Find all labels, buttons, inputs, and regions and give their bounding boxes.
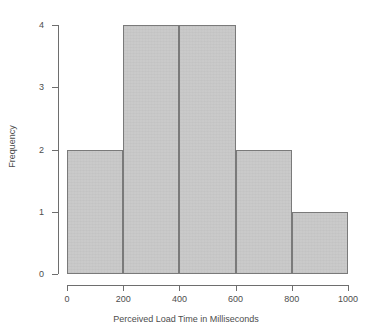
y-axis-tick-label: 0 [24, 270, 44, 279]
histogram-bar [292, 212, 348, 274]
x-axis-tick-label: 400 [159, 294, 199, 304]
x-axis-tick-label: 200 [103, 294, 143, 304]
y-axis-tick [52, 212, 58, 213]
x-axis-tick [348, 285, 349, 291]
y-axis-tick-label: 4 [24, 21, 44, 30]
y-axis-tick-label: 3 [24, 83, 44, 92]
y-axis-tick-label: 2 [24, 146, 44, 155]
x-axis-tick [67, 285, 68, 291]
histogram-bar [67, 150, 123, 275]
y-axis-tick [52, 87, 58, 88]
x-axis-tick-label: 0 [47, 294, 87, 304]
y-axis-tick [52, 150, 58, 151]
y-axis-line [58, 25, 59, 274]
x-axis-tick-label: 1000 [328, 294, 368, 304]
x-axis-tick [292, 285, 293, 291]
histogram-bar [123, 25, 179, 274]
y-axis-title: Frequency [8, 107, 17, 187]
histogram-bar [236, 150, 292, 275]
x-axis-tick [123, 285, 124, 291]
x-axis-tick [236, 285, 237, 291]
x-axis-tick [179, 285, 180, 291]
y-axis-tick [52, 25, 58, 26]
x-axis-tick-label: 600 [216, 294, 256, 304]
x-axis-tick-label: 800 [272, 294, 312, 304]
y-axis-tick [52, 274, 58, 275]
x-axis-line [67, 285, 348, 286]
x-axis-title: Perceived Load Time in Milliseconds [0, 314, 372, 325]
y-axis-tick-label: 1 [24, 208, 44, 217]
histogram-figure: 01234 Frequency 02004006008001000 Percei… [0, 0, 372, 335]
plot-area [67, 25, 348, 274]
histogram-bar [179, 25, 235, 274]
